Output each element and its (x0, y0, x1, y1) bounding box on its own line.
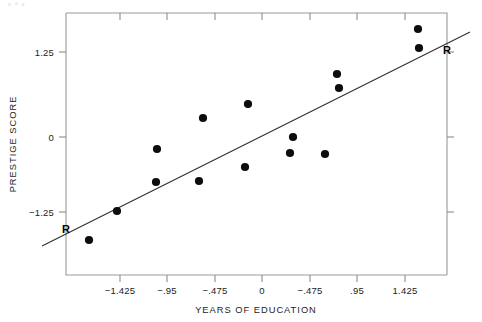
data-point (113, 207, 121, 215)
plot-canvas: R R −1.425 −.95 −.475 0 −.475 .95 1.425 … (0, 0, 482, 322)
scatter-plot-figure: R R −1.425 −.95 −.475 0 −.475 .95 1.425 … (0, 0, 482, 322)
x-tick-label-0: −1.425 (105, 285, 136, 296)
x-tick-label-3: 0 (259, 285, 264, 296)
fit-line-endpoint-label-right: R (443, 44, 451, 56)
y-tick-label-1: 0 (49, 132, 54, 143)
plot-frame-left-bottom (66, 13, 447, 275)
fit-line-endpoint-label-left: R (62, 223, 70, 235)
data-point (333, 70, 341, 78)
data-point (244, 100, 252, 108)
data-point (241, 163, 249, 171)
data-point (414, 25, 422, 33)
x-axis-ticks-bottom (120, 275, 405, 282)
x-tick-label-5: .95 (350, 285, 364, 296)
data-point (335, 84, 343, 92)
data-point (415, 44, 423, 52)
x-tick-label-2: −.475 (202, 285, 227, 296)
regression-fit-line (42, 32, 470, 246)
data-point-series (85, 25, 423, 244)
data-point (85, 236, 93, 244)
y-tick-label-0: 1.25 (35, 47, 54, 58)
y-axis-title: PRESTIGE SCORE (8, 96, 18, 193)
plot-frame-top-right (66, 13, 447, 275)
x-axis-title: YEARS OF EDUCATION (195, 305, 317, 315)
data-point (152, 178, 160, 186)
x-axis-ticks-top (120, 13, 405, 20)
y-axis-ticks-right (447, 52, 454, 212)
y-tick-label-2: −1.25 (29, 207, 54, 218)
data-point (289, 133, 297, 141)
data-point (321, 150, 329, 158)
data-point (199, 114, 207, 122)
x-tick-label-4: −.475 (297, 285, 322, 296)
data-point (286, 149, 294, 157)
data-point (195, 177, 203, 185)
data-point (153, 145, 161, 153)
x-tick-label-6: 1.425 (393, 285, 418, 296)
y-axis-ticks-left (59, 52, 66, 212)
x-tick-label-1: −.95 (157, 285, 177, 296)
